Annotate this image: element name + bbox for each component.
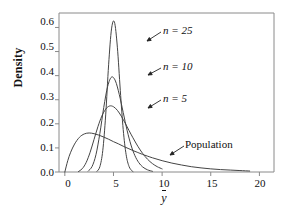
arrow-population xyxy=(170,146,184,155)
arrow-n-25 xyxy=(147,32,161,41)
density-curves xyxy=(65,21,250,172)
arrow-n-10 xyxy=(148,68,161,75)
annotation-arrows xyxy=(147,32,184,155)
arrow-n-5 xyxy=(148,100,161,108)
density-curve-n-5 xyxy=(78,106,162,172)
axis-ticks xyxy=(55,27,259,176)
density-curve-n-25 xyxy=(97,21,133,172)
sampling-distribution-chart: Density 0.6 0.5 0.4 0.3 0.2 0.1 0.0 0 5 … xyxy=(0,0,289,217)
plot-canvas xyxy=(0,0,289,217)
